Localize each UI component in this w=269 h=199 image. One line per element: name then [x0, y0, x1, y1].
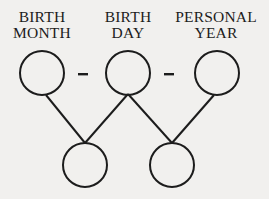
connector-line	[128, 94, 172, 143]
minus-sign-2	[164, 73, 174, 75]
connector-line	[85, 94, 128, 143]
minus-sign-1	[78, 73, 88, 75]
diagram-graphic	[0, 0, 269, 199]
connector-line	[46, 95, 85, 143]
circle-birth-month	[20, 51, 64, 95]
circle-personal-year	[195, 51, 239, 95]
connector-line	[172, 95, 214, 143]
circle-bottom-right	[150, 143, 194, 187]
circle-bottom-left	[63, 143, 107, 187]
circle-birth-day	[106, 51, 150, 95]
